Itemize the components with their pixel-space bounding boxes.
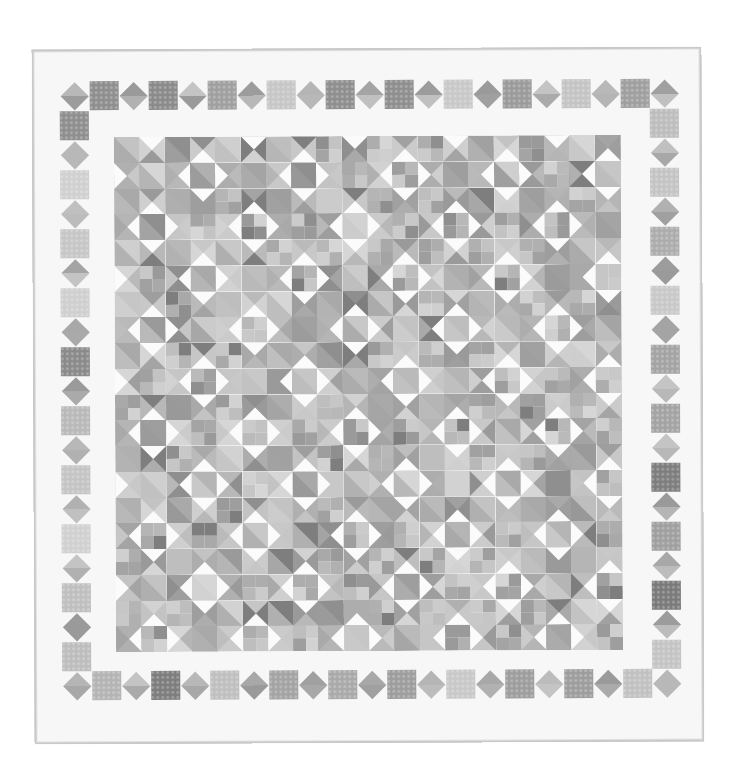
half-square-triangle [546,599,572,625]
border-square [60,229,89,258]
four-patch-square [190,214,216,240]
half-square-triangle [596,547,622,573]
four-patch-square [191,317,217,343]
four-patch-square [444,367,470,393]
half-square-triangle [268,574,294,600]
half-square-triangle [166,523,192,549]
half-square-triangle [116,575,142,601]
half-square-triangle [494,290,520,316]
four-patch-square [164,137,190,163]
four-patch-square [317,291,343,317]
half-square-triangle [392,136,418,162]
half-square-triangle [191,394,217,420]
four-patch-square [241,368,267,394]
border-diamond [355,80,383,108]
half-square-triangle [317,368,343,394]
four-patch-square [343,471,369,497]
four-patch-square [342,316,368,342]
four-patch-square [546,573,572,599]
four-patch-square [217,549,243,575]
four-patch-square [165,343,191,369]
half-square-triangle [419,522,445,548]
four-patch-square [317,394,343,420]
half-square-triangle [141,497,167,523]
four-patch-square [444,522,470,548]
four-patch-square [596,418,622,444]
half-square-triangle [217,626,243,652]
half-square-triangle [343,496,369,522]
four-patch-square [291,162,317,188]
half-square-triangle [418,316,444,342]
half-square-triangle [165,369,191,395]
half-square-triangle [418,161,444,187]
four-patch-square [115,394,141,420]
half-square-triangle [494,393,520,419]
border-diamond [476,670,504,698]
four-patch-square [519,135,545,161]
half-square-triangle [241,291,267,317]
four-patch-square [191,471,217,497]
half-square-triangle [242,445,268,471]
half-square-triangle [342,342,368,368]
half-square-triangle [216,368,242,394]
four-patch-square [419,445,445,471]
half-square-triangle [469,419,495,445]
half-square-triangle [317,213,343,239]
half-square-triangle [190,137,216,163]
four-patch-square [393,265,419,291]
border-square [60,170,89,199]
half-square-triangle [141,549,167,575]
border-square [650,226,679,255]
four-patch-square [368,393,394,419]
half-square-triangle [520,470,546,496]
four-patch-square [571,444,597,470]
four-patch-square [545,470,571,496]
four-patch-square [316,136,342,162]
four-patch-square [190,162,216,188]
half-square-triangle [495,599,521,625]
four-patch-square [266,136,292,162]
half-square-triangle [318,522,344,548]
half-square-triangle [420,625,446,651]
four-patch-square [545,264,571,290]
four-patch-square [495,573,521,599]
half-square-triangle [215,162,241,188]
border-square [561,79,590,108]
half-square-triangle [343,445,369,471]
half-square-triangle [369,625,395,651]
half-square-triangle [571,573,597,599]
border-square [266,80,295,109]
four-patch-square [496,625,522,651]
four-patch-square [392,162,418,188]
border-square [651,285,680,314]
border-diamond [594,669,622,697]
four-patch-square [495,522,521,548]
four-patch-square [318,600,344,626]
border-square [446,670,475,699]
border-square [384,80,413,109]
four-patch-square [546,521,572,547]
half-square-triangle [139,188,165,214]
four-patch-square [394,522,420,548]
border-square [151,671,180,700]
half-square-triangle [241,239,267,265]
four-patch-square [141,523,167,549]
border-diamond [652,551,680,579]
four-patch-square [570,393,596,419]
border-diamond [652,492,680,520]
half-square-triangle [418,367,444,393]
four-patch-square [344,625,370,651]
four-patch-square [114,188,140,214]
half-square-triangle [115,317,141,343]
four-patch-square [443,213,469,239]
border-diamond [62,613,90,641]
four-patch-square [141,575,167,601]
half-square-triangle [520,521,546,547]
half-square-triangle [268,626,294,652]
half-square-triangle [394,599,420,625]
border-square [651,462,680,491]
border-square [650,108,679,137]
four-patch-square [266,188,292,214]
four-patch-square [469,238,495,264]
half-square-triangle [166,420,192,446]
